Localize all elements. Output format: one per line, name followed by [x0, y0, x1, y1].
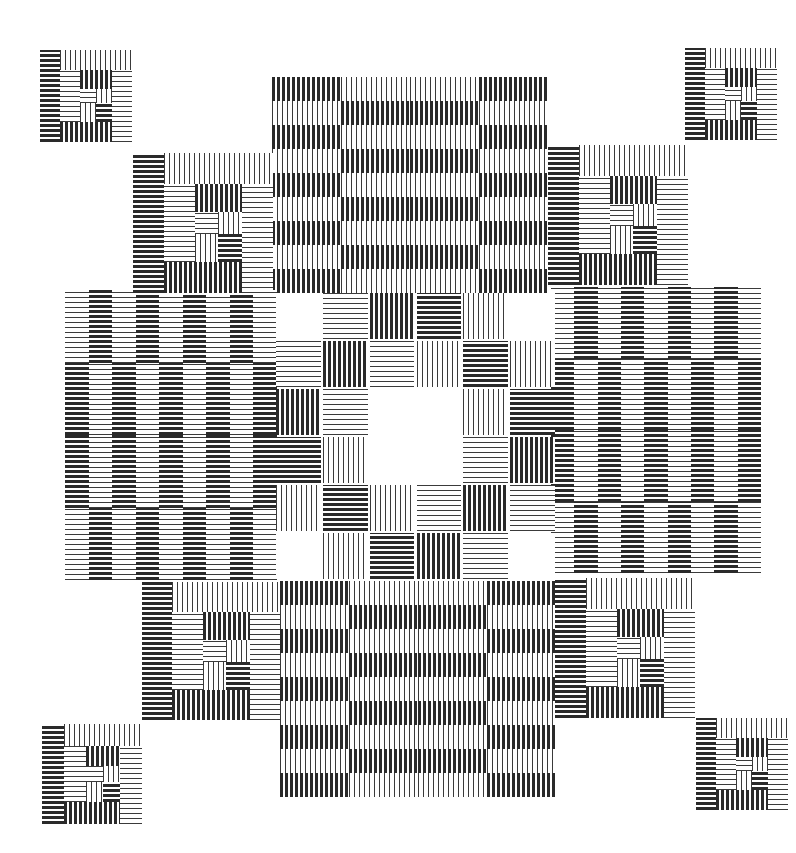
corner-tile — [60, 50, 132, 70]
stripe-tile — [574, 502, 597, 574]
stripe-tile — [644, 359, 667, 431]
stripe-tile — [410, 197, 479, 221]
grid-cell — [370, 533, 415, 579]
corner-tile — [80, 103, 96, 121]
stripe-tile — [341, 101, 410, 125]
grid-cell — [276, 293, 321, 339]
stripe-tile — [418, 677, 487, 701]
corner-tile — [96, 89, 112, 104]
corner-tile — [617, 659, 641, 687]
corner-bottom-left-outer — [42, 724, 142, 824]
stripe-tile — [644, 430, 667, 502]
corner-tile — [80, 89, 96, 104]
grid-cell — [417, 485, 462, 531]
grid-cell — [370, 341, 415, 387]
grid-cell — [276, 341, 321, 387]
stripe-tile — [65, 290, 89, 363]
corner-tile — [60, 122, 112, 142]
corner-tile — [633, 204, 657, 226]
grid-cell — [370, 485, 415, 531]
stripe-tile — [487, 749, 556, 773]
corner-bottom-right-inner — [555, 578, 695, 718]
corner-tile — [610, 176, 658, 204]
stripe-tile — [272, 197, 341, 221]
corner-tile — [40, 50, 60, 142]
stripe-tile — [668, 287, 691, 359]
stripe-tile — [418, 701, 487, 725]
stripe-tile — [598, 287, 621, 359]
grid-cell — [417, 341, 462, 387]
stripe-tile — [272, 269, 341, 293]
stripe-tile — [598, 430, 621, 502]
stripe-tile — [714, 430, 737, 502]
stripe-tile — [738, 502, 761, 574]
corner-tile — [96, 103, 112, 121]
corner-tile — [725, 87, 741, 102]
corner-tile — [64, 746, 86, 802]
corner-tile — [685, 48, 705, 140]
stripe-tile — [487, 725, 556, 749]
stripe-tile — [272, 125, 341, 149]
stripe-tile — [341, 245, 410, 269]
stripe-tile — [479, 221, 548, 245]
corner-tile — [86, 766, 103, 782]
stripe-tile — [280, 653, 349, 677]
stripe-tile — [644, 287, 667, 359]
stripe-tile — [410, 149, 479, 173]
stripe-tile — [349, 773, 418, 797]
corner-tile — [741, 87, 757, 102]
stripe-tile — [349, 581, 418, 605]
stripe-tile — [272, 101, 341, 125]
corner-top-right-inner — [548, 145, 688, 285]
stripe-tile — [206, 508, 230, 581]
center-grid — [275, 292, 556, 580]
grid-cell — [370, 437, 415, 483]
corner-tile — [696, 718, 716, 810]
grid-cell — [510, 293, 555, 339]
stripe-tile — [280, 725, 349, 749]
corner-tile — [586, 609, 617, 687]
stripe-tile — [487, 773, 556, 797]
stripe-tile — [65, 435, 89, 508]
corner-tile — [60, 70, 80, 122]
op-art-canvas — [0, 0, 796, 853]
stripe-tile — [349, 605, 418, 629]
stripe-tile — [112, 363, 136, 436]
stripe-tile — [280, 629, 349, 653]
stripe-tile — [479, 101, 548, 125]
stripe-tile — [272, 245, 341, 269]
corner-tile — [586, 578, 695, 609]
corner-tile — [195, 212, 219, 234]
corner-tile — [752, 757, 768, 772]
stripe-tile — [479, 269, 548, 293]
grid-cell — [463, 389, 508, 435]
stripe-tile — [691, 359, 714, 431]
corner-tile — [172, 582, 280, 612]
stripe-tile — [574, 430, 597, 502]
grid-cell — [510, 533, 555, 579]
stripe-tile — [621, 359, 644, 431]
corner-tile — [218, 234, 242, 262]
stripe-tile — [280, 773, 349, 797]
stripe-tile — [89, 508, 113, 581]
corner-tile — [736, 757, 752, 772]
stripe-tile — [621, 287, 644, 359]
corner-top-left-outer — [40, 50, 132, 142]
corner-tile — [617, 609, 665, 637]
stripe-tile — [280, 701, 349, 725]
stripe-tile — [349, 701, 418, 725]
grid-cell — [323, 389, 368, 435]
stripe-tile — [644, 502, 667, 574]
stripe-tile — [341, 269, 410, 293]
corner-tile — [716, 790, 768, 810]
corner-tile — [86, 746, 120, 766]
corner-tile — [203, 640, 226, 662]
stripe-tile — [341, 197, 410, 221]
stripe-tile — [487, 653, 556, 677]
stripe-tile — [691, 502, 714, 574]
corner-tile — [226, 640, 249, 662]
stripe-tile — [621, 430, 644, 502]
stripe-tile — [253, 508, 277, 581]
grid-cell — [323, 293, 368, 339]
stripe-tile — [341, 77, 410, 101]
